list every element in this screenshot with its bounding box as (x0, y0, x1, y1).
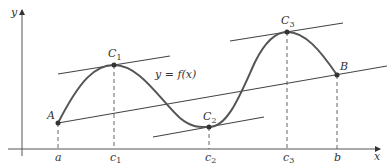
point-label-B: B (339, 60, 348, 73)
point-A (56, 121, 61, 126)
tick-label-c1: c1 (110, 151, 121, 164)
point-label-A: A (46, 109, 55, 122)
curve-label: y = f(x) (154, 68, 196, 81)
tick-label-b: b (334, 151, 341, 164)
point-B (335, 73, 340, 78)
mean-value-theorem-diagram: y x A C1 C2 C3 B y = f(x) a c1 c2 c3 b (0, 0, 387, 164)
function-curve (58, 32, 337, 127)
tick-label-c3: c3 (283, 151, 294, 164)
point-C3 (285, 30, 290, 35)
tick-label-c2: c2 (205, 151, 216, 164)
y-axis-label: y (10, 6, 18, 19)
dashed-guides (58, 32, 337, 149)
point-label-C2: C2 (203, 110, 217, 125)
point-C1 (112, 63, 117, 68)
point-label-C1: C1 (108, 47, 122, 62)
curve-points (56, 30, 340, 130)
point-C2 (207, 125, 212, 130)
x-axis-label: x (374, 150, 381, 163)
diagram-svg: y x A C1 C2 C3 B y = f(x) a c1 c2 c3 b (0, 0, 387, 164)
point-label-C3: C3 (281, 14, 295, 29)
tick-label-a: a (55, 151, 62, 164)
